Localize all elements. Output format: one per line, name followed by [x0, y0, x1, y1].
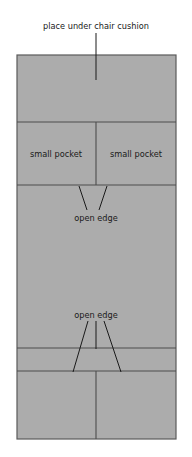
diagram-canvas: place under chair cushion small pocket s…: [0, 0, 192, 457]
label-open-edge-upper: open edge: [74, 213, 118, 223]
sewing-pattern-diagram: place under chair cushion small pocket s…: [0, 0, 192, 457]
label-small-pocket-right: small pocket: [110, 149, 163, 159]
label-small-pocket-left: small pocket: [30, 149, 83, 159]
diagram-title: place under chair cushion: [43, 21, 149, 31]
label-open-edge-lower: open edge: [74, 310, 118, 320]
